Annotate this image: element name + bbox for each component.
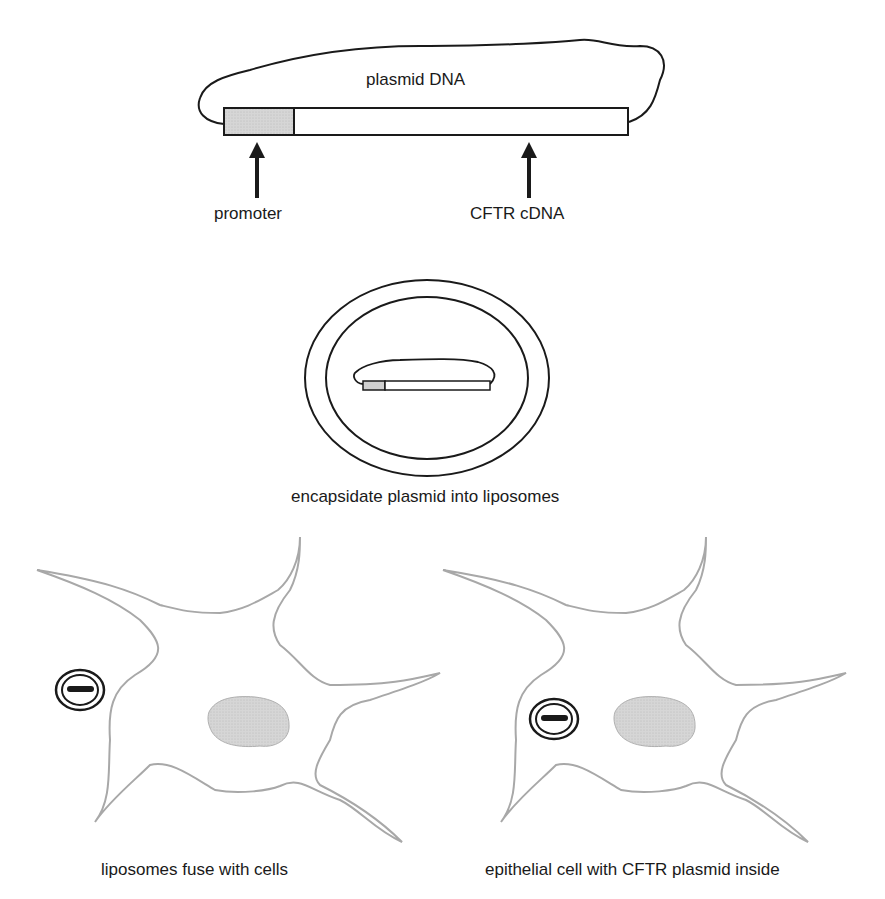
liposome-outer-membrane (305, 280, 549, 476)
liposome-large (305, 280, 549, 476)
plasmid-construct (199, 40, 664, 198)
cell-membrane (443, 537, 846, 842)
liposome-small-fusing-icon (56, 670, 104, 710)
nucleus (614, 697, 695, 747)
epithelial-cell-left (37, 537, 440, 842)
liposome-small-inside-icon (530, 699, 578, 739)
cftr-cdna-label: CFTR cDNA (470, 204, 564, 224)
cell-inside-caption: epithelial cell with CFTR plasmid inside (485, 860, 780, 880)
diagram-canvas (0, 0, 885, 899)
cftr-cdna-segment (294, 108, 628, 135)
nucleus (208, 697, 289, 747)
promoter-segment (224, 108, 294, 135)
epithelial-cell-right (443, 537, 846, 842)
promoter-arrow-icon (249, 142, 265, 198)
cftr-arrow-icon (521, 142, 537, 198)
liposome-inner-membrane (326, 297, 528, 459)
plasmid-dna-label: plasmid DNA (366, 70, 465, 90)
encapsidate-caption: encapsidate plasmid into liposomes (291, 487, 559, 507)
promoter-label: promoter (214, 204, 282, 224)
fuse-caption: liposomes fuse with cells (101, 860, 288, 880)
